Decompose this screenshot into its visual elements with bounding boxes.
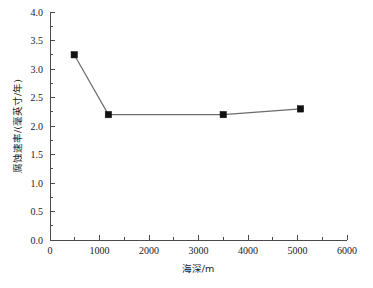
plot-frame <box>50 12 347 240</box>
y-tick-label: 1.0 <box>31 178 44 189</box>
x-tick-label: 1000 <box>90 245 110 256</box>
axis-spines <box>50 12 347 240</box>
y-tick-label: 0.5 <box>31 206 44 217</box>
x-axis-title: 海深/m <box>182 263 214 274</box>
chart-figure: 0.00.51.01.52.02.53.03.54.0 010002000300… <box>0 0 373 288</box>
y-tick-label: 3.0 <box>31 64 44 75</box>
data-point-marker <box>105 111 111 117</box>
x-tick-label: 3000 <box>189 245 209 256</box>
x-axis-tick-labels: 0100020003000400050006000 <box>48 245 358 256</box>
y-tick-label: 1.5 <box>31 149 44 160</box>
x-tick-label: 5000 <box>288 245 308 256</box>
y-tick-label: 3.5 <box>31 35 44 46</box>
data-series-layer <box>71 52 304 118</box>
y-axis-tick-labels: 0.00.51.01.52.02.53.03.54.0 <box>31 7 44 246</box>
data-point-marker <box>220 111 226 117</box>
series-line <box>74 55 300 115</box>
y-tick-label: 2.0 <box>31 121 44 132</box>
y-axis-title: 腐蚀速率/(毫英寸/年) <box>12 79 23 173</box>
x-tick-label: 2000 <box>139 245 159 256</box>
y-tick-label: 4.0 <box>31 7 44 18</box>
data-point-marker <box>297 106 303 112</box>
x-tick-label: 0 <box>48 245 53 256</box>
x-tick-label: 6000 <box>337 245 357 256</box>
chart-canvas: 0.00.51.01.52.02.53.03.54.0 010002000300… <box>0 0 373 288</box>
x-tick-label: 4000 <box>238 245 258 256</box>
data-point-marker <box>71 52 77 58</box>
y-axis-ticks <box>50 12 55 240</box>
y-tick-label: 2.5 <box>31 92 44 103</box>
x-axis-ticks <box>50 235 347 240</box>
y-tick-label: 0.0 <box>31 235 44 246</box>
